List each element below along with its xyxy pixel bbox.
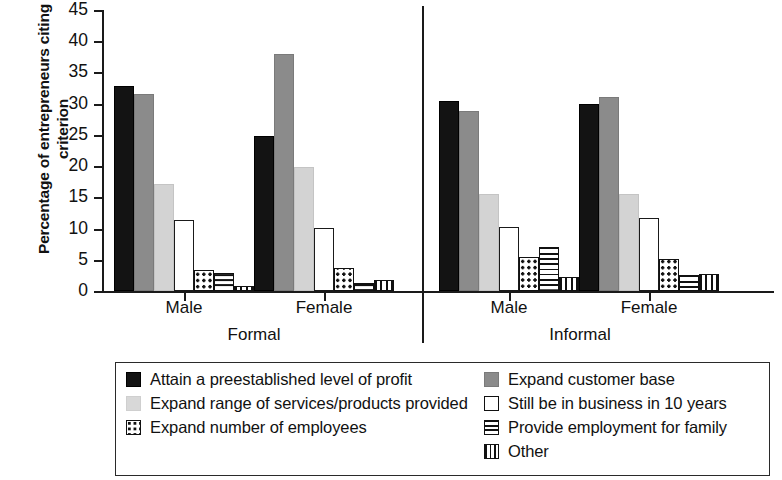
x-axis-labels: MaleFemaleMaleFemale FormalInformal xyxy=(102,296,774,352)
y-tick xyxy=(94,197,102,199)
x-axis-label: Female xyxy=(599,298,699,318)
y-tick xyxy=(94,72,102,74)
y-tick xyxy=(94,166,102,168)
bar xyxy=(194,270,214,291)
bar xyxy=(374,280,394,291)
bar xyxy=(154,184,174,291)
y-tick-label: 45 xyxy=(46,1,88,18)
x-axis-label: Female xyxy=(274,298,374,318)
y-tick xyxy=(94,41,102,43)
bar xyxy=(354,283,374,291)
solid-light-gray-swatch-icon xyxy=(126,396,141,411)
legend-item[interactable]: Expand number of employees xyxy=(126,417,481,437)
bar xyxy=(639,218,659,291)
bar xyxy=(679,275,699,291)
legend-item-label: Expand customer base xyxy=(508,369,675,389)
legend-column-left: Attain a preestablished level of profitE… xyxy=(126,369,481,441)
group-separator xyxy=(422,6,424,343)
y-tick xyxy=(94,135,102,137)
grouped-bar-chart: Percentage of entrepreneurs citing crite… xyxy=(0,0,782,480)
bar xyxy=(234,286,254,291)
y-tick-label: 10 xyxy=(46,220,88,237)
legend-item[interactable]: Expand range of services/products provid… xyxy=(126,393,481,413)
horizontal-stripes-swatch-icon xyxy=(484,420,499,435)
bar-group xyxy=(439,10,579,291)
y-tick xyxy=(94,291,102,293)
y-tick xyxy=(94,260,102,262)
bar-group xyxy=(114,10,254,291)
bar xyxy=(294,167,314,291)
bar xyxy=(314,228,334,291)
bar xyxy=(254,136,274,291)
legend-column-right: Expand customer baseStill be in business… xyxy=(484,369,764,465)
vertical-stripes-swatch-icon xyxy=(484,444,499,459)
y-tick-label: 20 xyxy=(46,157,88,174)
x-axis-line xyxy=(102,291,774,293)
solid-dark-gray-swatch-icon xyxy=(484,372,499,387)
bar xyxy=(459,111,479,291)
bar xyxy=(114,86,134,291)
bar xyxy=(659,259,679,291)
solid-black-swatch-icon xyxy=(126,372,141,387)
bar xyxy=(499,227,519,291)
y-axis-line xyxy=(102,10,104,293)
y-tick-label: 5 xyxy=(46,251,88,268)
legend-item-label: Other xyxy=(508,441,549,461)
bar xyxy=(559,277,579,291)
legend-item-label: Provide employment for family xyxy=(508,417,727,437)
y-tick-label: 40 xyxy=(46,32,88,49)
y-tick-label: 30 xyxy=(46,95,88,112)
legend-item[interactable]: Attain a preestablished level of profit xyxy=(126,369,481,389)
bar xyxy=(174,220,194,291)
legend-item[interactable]: Expand customer base xyxy=(484,369,764,389)
legend-item-label: Expand range of services/products provid… xyxy=(150,393,468,413)
x-axis-label: Male xyxy=(459,298,559,318)
legend-item-label: Expand number of employees xyxy=(150,417,367,437)
outline-white-swatch-icon xyxy=(484,396,499,411)
legend-item[interactable]: Other xyxy=(484,441,764,461)
bar-group xyxy=(254,10,394,291)
x-axis-label: Male xyxy=(134,298,234,318)
bar xyxy=(619,194,639,291)
y-tick-label: 25 xyxy=(46,126,88,143)
y-tick xyxy=(94,104,102,106)
legend-item-label: Attain a preestablished level of profit xyxy=(150,369,412,389)
chart-legend: Attain a preestablished level of profitE… xyxy=(115,362,770,476)
bar xyxy=(599,97,619,291)
bar xyxy=(334,268,354,291)
bar xyxy=(519,257,539,291)
bar-group xyxy=(579,10,719,291)
plot-area: 051015202530354045 xyxy=(102,10,774,293)
x-axis-super-label: Formal xyxy=(194,325,314,345)
y-tick-label: 0 xyxy=(46,282,88,299)
polka-dot-swatch-icon xyxy=(126,420,141,435)
x-axis-super-label: Informal xyxy=(520,325,640,345)
bar xyxy=(214,273,234,291)
bar xyxy=(479,194,499,291)
y-tick-label: 15 xyxy=(46,188,88,205)
bar xyxy=(274,54,294,291)
y-tick xyxy=(94,229,102,231)
legend-item-label: Still be in business in 10 years xyxy=(508,393,727,413)
bar xyxy=(579,104,599,291)
legend-item[interactable]: Provide employment for family xyxy=(484,417,764,437)
bar xyxy=(539,247,559,291)
legend-item[interactable]: Still be in business in 10 years xyxy=(484,393,764,413)
bar xyxy=(439,101,459,291)
bar xyxy=(699,274,719,291)
y-tick-label: 35 xyxy=(46,63,88,80)
y-tick xyxy=(94,10,102,12)
bar xyxy=(134,94,154,291)
